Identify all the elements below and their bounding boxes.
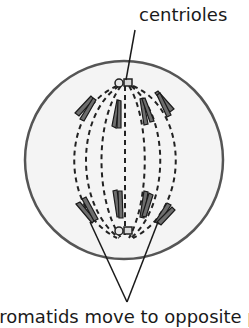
diagram-canvas	[0, 0, 249, 328]
centriole-icon	[124, 79, 132, 86]
centrioles-label: centrioles	[139, 4, 227, 25]
bottom-centrioles	[115, 227, 132, 235]
centriole-icon	[124, 227, 132, 234]
centriole-icon	[115, 227, 123, 235]
top-centrioles	[115, 79, 132, 87]
centriole-icon	[115, 79, 123, 87]
chromatids-label: chromatids move to opposite poles	[0, 306, 249, 327]
